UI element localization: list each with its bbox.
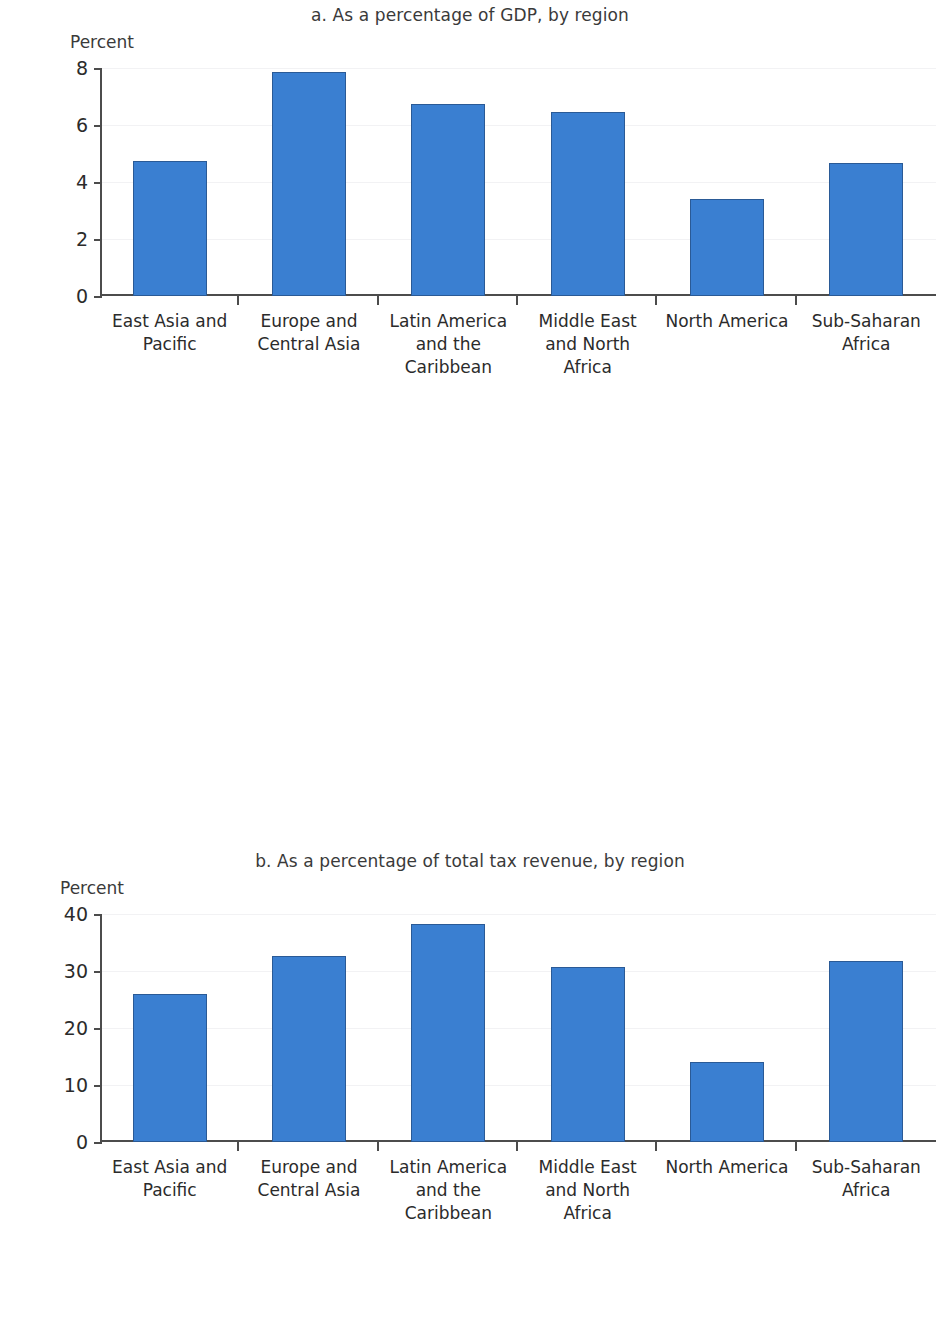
y-axis-tick-label: 0 [76, 285, 88, 307]
bar[interactable] [272, 72, 346, 296]
bar-slot [797, 68, 936, 296]
x-axis-category-label: Sub-Saharan Africa [797, 310, 936, 379]
panel-a-x-labels: East Asia and PacificEurope and Central … [100, 310, 936, 379]
x-axis-category-label: East Asia and Pacific [100, 310, 239, 379]
x-axis-tick [655, 296, 657, 305]
x-axis-category-label: Middle East and North Africa [518, 310, 657, 379]
y-axis-tick [94, 296, 102, 298]
x-axis-tick [795, 296, 797, 305]
panel-b: b. As a percentage of total tax revenue,… [0, 420, 940, 840]
bar-slot [239, 68, 378, 296]
bar-slot [100, 68, 239, 296]
panel-a: a. As a percentage of GDP, by region Per… [0, 0, 940, 420]
x-axis-tick [237, 296, 239, 305]
bar[interactable] [133, 161, 207, 296]
bar-series [100, 68, 936, 296]
bar[interactable] [551, 112, 625, 296]
x-axis-tick [377, 296, 379, 305]
bar-slot [518, 68, 657, 296]
bar[interactable] [829, 163, 903, 296]
y-axis-tick-label: 6 [76, 114, 88, 136]
panel-a-axis-unit: Percent [70, 32, 134, 52]
bar-slot [657, 68, 796, 296]
x-axis-category-label: Europe and Central Asia [239, 310, 378, 379]
bar-slot [379, 68, 518, 296]
bar[interactable] [411, 104, 485, 296]
panel-a-plot: 02468 [100, 68, 936, 296]
y-axis-tick-label: 4 [76, 171, 88, 193]
panel-c: c. As a percentage of total tax revenue,… [0, 840, 940, 1300]
y-axis-tick-label: 2 [76, 228, 88, 250]
x-axis-category-label: Latin America and the Caribbean [379, 310, 518, 379]
x-axis-category-label: North America [657, 310, 796, 379]
panel-a-title: a. As a percentage of GDP, by region [0, 4, 940, 26]
y-axis-tick-label: 8 [76, 57, 88, 79]
bar[interactable] [690, 199, 764, 296]
x-axis-tick [516, 296, 518, 305]
